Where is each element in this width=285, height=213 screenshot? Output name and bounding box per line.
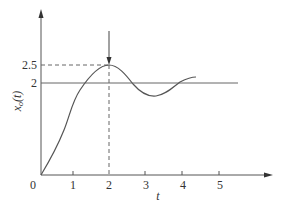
response-curve [41, 65, 196, 175]
x-axis-label: t [156, 189, 160, 203]
y-axis-arrow-icon [39, 9, 44, 18]
response-diagram: 0 1 2 3 4 5 t 2.5 2 xo(t) [0, 0, 285, 213]
y-tick-label-2: 2 [31, 76, 37, 90]
x-axis-arrow-icon [264, 173, 273, 178]
x-tick-label-0: 0 [30, 178, 36, 192]
x-tick-label-2: 2 [106, 178, 112, 192]
y-tick-label-2.5: 2.5 [22, 58, 37, 72]
x-tick-label-4: 4 [180, 178, 186, 192]
x-tick-label-5: 5 [217, 178, 223, 192]
x-tick-label-3: 3 [143, 178, 149, 192]
peak-arrow-icon [107, 57, 112, 65]
x-tick-label-1: 1 [70, 178, 76, 192]
x-ticks [73, 171, 219, 175]
y-axis-label: xo(t) [10, 91, 25, 113]
